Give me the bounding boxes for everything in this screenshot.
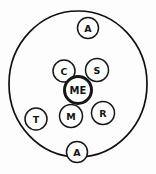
ego-network-diagram: A S C R M T A ME: [0, 0, 156, 174]
alter-a-top-label: A: [84, 23, 92, 34]
node-alter-t[interactable]: T: [25, 108, 47, 130]
alter-s-label: S: [94, 65, 101, 76]
alter-a-bottom-label: A: [73, 147, 81, 158]
alter-c-label: C: [61, 66, 68, 77]
node-alter-s[interactable]: S: [86, 59, 109, 82]
node-alter-a-bottom[interactable]: A: [67, 142, 88, 163]
node-ego-me[interactable]: ME: [65, 77, 92, 104]
node-alter-r[interactable]: R: [92, 102, 115, 125]
sketch-canvas: A S C R M T A ME: [0, 0, 156, 174]
ego-me-label: ME: [70, 85, 87, 96]
alter-m-label: M: [66, 111, 75, 122]
alter-r-label: R: [99, 108, 107, 119]
node-alter-a-top[interactable]: A: [78, 18, 99, 39]
alter-t-label: T: [33, 114, 40, 125]
node-alter-m[interactable]: M: [60, 105, 83, 128]
